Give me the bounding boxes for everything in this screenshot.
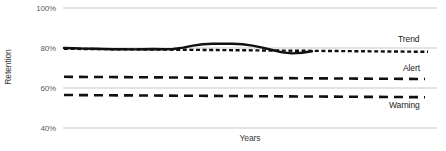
warning-series-label: Warning [389, 101, 420, 110]
y-tick-label-100: 100% [22, 4, 56, 13]
x-axis-title: Years [63, 133, 437, 143]
y-tick-label-40: 40% [22, 124, 56, 133]
y-axis-title: Retention [3, 35, 13, 99]
retention-trend-chart: 100% 80% 60% 40% Retention Years Trend A… [0, 0, 446, 151]
chart-plot-area [0, 0, 446, 151]
trend-series-label: Trend [398, 35, 419, 44]
y-tick-label-80: 80% [22, 44, 56, 53]
alert-series-label: Alert [403, 64, 420, 73]
y-tick-label-60: 60% [22, 84, 56, 93]
